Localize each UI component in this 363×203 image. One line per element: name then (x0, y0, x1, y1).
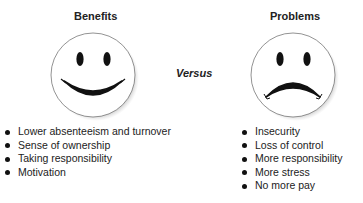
versus-label: Versus (176, 67, 212, 79)
list-item: More stress (241, 166, 343, 180)
benefits-list: Lower absenteeism and turnover Sense of … (4, 125, 171, 179)
list-item: Lower absenteeism and turnover (4, 125, 171, 139)
list-item: Insecurity (241, 125, 343, 139)
list-item: Motivation (4, 166, 171, 180)
list-item: Sense of ownership (4, 139, 171, 153)
problems-list: Insecurity Loss of control More responsi… (241, 125, 343, 193)
list-item: No more pay (241, 179, 343, 193)
problems-heading: Problems (270, 10, 320, 22)
list-item: More responsibility (241, 152, 343, 166)
list-item: Loss of control (241, 139, 343, 153)
benefits-heading: Benefits (74, 10, 117, 22)
sad-face-icon (246, 29, 342, 125)
smiley-face-icon (46, 29, 142, 125)
list-item: Taking responsibility (4, 152, 171, 166)
